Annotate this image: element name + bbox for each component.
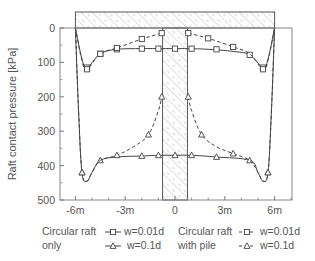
- raft-hatch: [75, 12, 274, 28]
- pile-hatch: [163, 28, 188, 200]
- svg-text:100: 100: [37, 56, 55, 68]
- svg-text:3m: 3m: [218, 204, 233, 216]
- y-axis-label-text: Raft contact pressure [kPa]: [6, 48, 18, 181]
- svg-text:200: 200: [37, 91, 55, 103]
- legend-entry-with-pile-001d: w=0.01d: [260, 224, 300, 238]
- legend-group-raft-with-pile: Circular raft with pile: [178, 224, 232, 252]
- legend-group-label: only: [42, 238, 96, 252]
- svg-text:6m: 6m: [267, 204, 282, 216]
- svg-text:300: 300: [37, 125, 55, 137]
- legend-entry-raft-only-001d: w=0.01d: [124, 224, 164, 238]
- svg-text:-6m: -6m: [66, 204, 84, 216]
- legend-group-raft-only: Circular raft only: [42, 224, 96, 252]
- legend-entry-with-pile-01d: w=0.1d: [260, 238, 294, 252]
- y-axis-label: Raft contact pressure [kPa]: [2, 28, 22, 200]
- svg-text:400: 400: [37, 160, 55, 172]
- legend-entry-raft-only-01d: w=0.1d: [127, 238, 161, 252]
- svg-text:500: 500: [37, 194, 55, 206]
- svg-text:0: 0: [49, 22, 55, 34]
- svg-text:-3m: -3m: [116, 204, 134, 216]
- chart-canvas: 0100200300400500 -6m-3m03m6m: [0, 0, 315, 261]
- legend-group-label: Circular raft: [42, 224, 96, 238]
- legend-group-label: Circular raft: [178, 224, 232, 238]
- legend-group-label: with pile: [178, 238, 232, 252]
- svg-text:0: 0: [172, 204, 178, 216]
